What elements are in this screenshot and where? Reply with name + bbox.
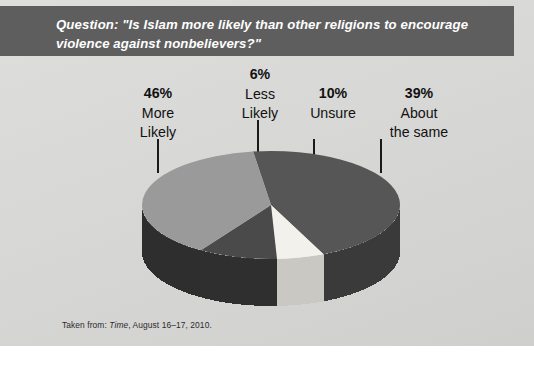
- pie-side-2: [261, 259, 262, 306]
- pie-side-0: [347, 247, 351, 295]
- pie-side-1: [291, 258, 292, 305]
- pie-side-1: [296, 258, 297, 305]
- pie-side-2: [229, 256, 230, 303]
- pie-side-0: [395, 219, 396, 268]
- pie-side-2: [237, 257, 238, 304]
- slice-percent-about-same: 39%: [366, 84, 472, 104]
- pie-side-1: [320, 255, 321, 302]
- pie-side-2: [220, 255, 221, 302]
- pie-side-0: [392, 222, 394, 271]
- pie-side-1: [310, 256, 311, 303]
- slice-name-unsure-line1: Unsure: [290, 104, 376, 124]
- pie-side-2: [227, 256, 228, 303]
- pie-side-1: [321, 255, 322, 302]
- pie-side-1: [287, 259, 288, 306]
- pie-side-0: [351, 246, 355, 294]
- pie-side-2: [260, 259, 261, 306]
- pie-side-1: [309, 256, 310, 303]
- slice-label-unsure: 10% Unsure: [290, 84, 376, 123]
- pie-side-1: [314, 256, 315, 303]
- chart-panel: Question: "Is Islam more likely than oth…: [0, 0, 534, 346]
- pie-side-2: [273, 259, 274, 306]
- pie-side-3: [165, 236, 167, 284]
- pie-side-2: [241, 258, 242, 305]
- pie-side-1: [317, 255, 318, 302]
- pie-side-1: [313, 256, 314, 303]
- pie-side-2: [234, 257, 235, 304]
- pie-side-1: [291, 258, 292, 305]
- pie-side-2: [230, 256, 231, 303]
- pie-side-3: [143, 211, 144, 260]
- pie-top-faces: [142, 151, 400, 259]
- pie-side-2: [251, 258, 252, 305]
- pie-side-1: [282, 259, 283, 306]
- pie-side-1: [295, 258, 296, 305]
- pie-side-2: [257, 259, 258, 306]
- pie-side-2: [246, 258, 247, 305]
- pie-side-3: [194, 248, 197, 296]
- pie-side-1: [301, 257, 302, 304]
- credit-source: Time: [109, 320, 128, 330]
- slice-percent-unsure: 10%: [290, 84, 376, 104]
- pie-side-0: [371, 238, 374, 287]
- pie-side-2: [231, 256, 232, 303]
- pie-side-1: [284, 259, 285, 306]
- pie-side-1: [305, 257, 306, 304]
- pie-side-2: [244, 258, 245, 305]
- pie-side-1: [280, 259, 281, 306]
- pie-side-1: [320, 255, 321, 302]
- question-banner: Question: "Is Islam more likely than oth…: [0, 6, 514, 56]
- pie-side-2: [250, 258, 251, 305]
- question-text: Question: "Is Islam more likely than oth…: [56, 15, 496, 53]
- pie-side-2: [254, 259, 255, 306]
- pie-side-1: [278, 259, 279, 306]
- pie-side-1: [319, 255, 320, 302]
- pie-side-2: [217, 254, 218, 301]
- pie-side-1: [279, 259, 280, 306]
- pie-side-1: [279, 259, 280, 306]
- pie-side-2: [228, 256, 229, 303]
- pie-side-2: [245, 258, 246, 305]
- pie-side-2: [212, 253, 213, 300]
- pie-side-0: [399, 211, 400, 260]
- pie-side-1: [319, 255, 320, 302]
- pie-side-2: [275, 259, 276, 306]
- pie-side-2: [272, 259, 273, 306]
- pie-side-3: [172, 239, 175, 287]
- pie-side-1: [312, 256, 313, 303]
- pie-side-1: [284, 259, 285, 306]
- pie-side-2: [208, 252, 209, 299]
- pie-side-1: [315, 256, 316, 303]
- pie-side-1: [294, 258, 295, 305]
- pie-side-1: [313, 256, 314, 303]
- pie-side-2: [249, 258, 250, 305]
- pie-side-1: [322, 254, 323, 301]
- pie-side-2: [202, 251, 203, 298]
- pie-side-2: [274, 259, 275, 306]
- pie-side-0: [361, 242, 364, 290]
- pie-side-2: [233, 257, 234, 304]
- pie-side-1: [282, 259, 283, 306]
- pie-side-2: [271, 259, 272, 306]
- pie-side-2: [240, 257, 241, 304]
- pie-side-1: [300, 258, 301, 305]
- pie-side-2: [206, 252, 207, 299]
- pie-side-2: [268, 259, 269, 306]
- pie-side-1: [323, 254, 324, 301]
- pie-side-2: [201, 250, 202, 297]
- pie-side-2: [209, 252, 210, 299]
- pie-side-3: [191, 247, 194, 295]
- pie-side-1: [305, 257, 306, 304]
- pie-side-2: [266, 259, 267, 306]
- pie-side-0: [340, 250, 344, 298]
- pie-side-3: [182, 244, 185, 292]
- pie-side-2: [216, 254, 217, 301]
- pie-side-3: [198, 249, 201, 297]
- pie-side-2: [215, 254, 216, 301]
- pie-side-1: [300, 258, 301, 305]
- pie-side-3: [149, 222, 150, 271]
- pie-side-1: [316, 256, 317, 303]
- pie-side-1: [293, 258, 294, 305]
- pie-side-0: [374, 236, 377, 285]
- pie-side-3: [147, 219, 148, 268]
